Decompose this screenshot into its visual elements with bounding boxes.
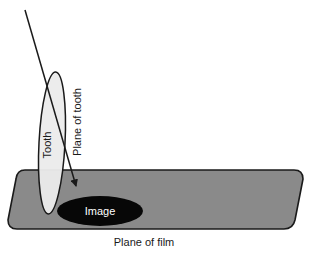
tooth-label: Tooth: [41, 132, 53, 159]
plane-of-tooth-label: Plane of tooth: [71, 88, 83, 156]
plane-of-film-label: Plane of film: [114, 236, 175, 248]
image-label: Image: [85, 205, 116, 217]
radiograph-geometry-figure: Tooth Plane of tooth Image Plane of film: [0, 0, 312, 253]
diagram-canvas: Tooth Plane of tooth Image Plane of film: [0, 0, 312, 253]
